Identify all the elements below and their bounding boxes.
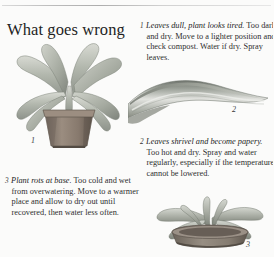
figure-number-2: 2 [232, 105, 236, 114]
troubleshooting-entry-3: 3Plant rots at base. Too cold and wet fr… [5, 176, 140, 218]
entry-1-lead: Leaves dull, plant looks tired. [146, 21, 244, 30]
entry-3-lead: Plant rots at base. [11, 176, 72, 185]
book-page: What goes wrong [0, 0, 273, 257]
entry-2-lead: Leaves shrivel and become papery. [146, 137, 262, 146]
entry-3-number: 3 [5, 177, 9, 185]
rotting-plant-in-pot-illustration [150, 192, 270, 254]
figure-number-1: 1 [31, 136, 35, 145]
entry-1-number: 1 [140, 22, 144, 30]
entry-2-body: Too hot and dry. Spray and water regular… [147, 148, 274, 178]
troubleshooting-entry-2: 2Leaves shrivel and become papery. Too h… [140, 137, 273, 179]
shrivelled-papery-leaf-illustration [128, 74, 273, 126]
figure-number-3: 3 [246, 240, 250, 249]
header-rule [2, 5, 271, 6]
drooping-potted-plant-illustration [8, 34, 130, 152]
entry-2-number: 2 [140, 138, 144, 146]
troubleshooting-entry-1: 1Leaves dull, plant looks tired. Too dar… [140, 21, 273, 63]
